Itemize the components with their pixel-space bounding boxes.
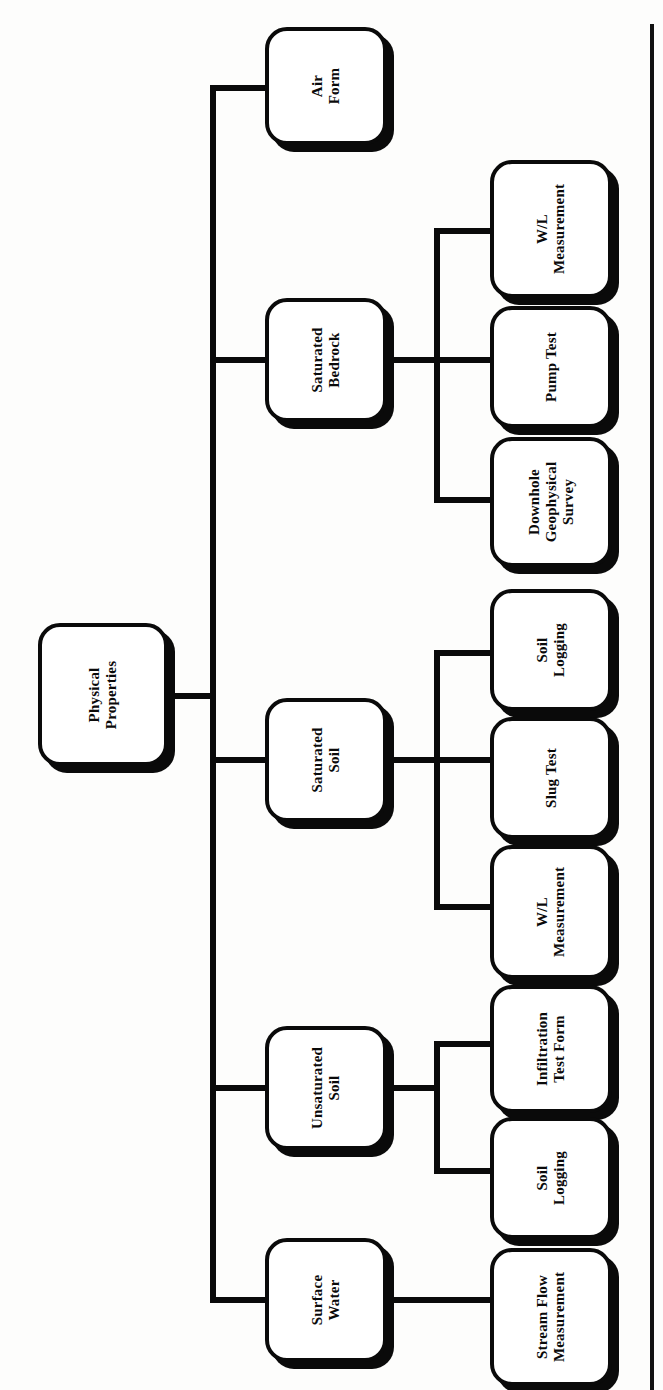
node-unsat-soil-logging[interactable]: Soil Logging [490,1117,612,1239]
page-border-rule [650,24,654,1390]
node-satsoil-slug-test[interactable]: Slug Test [490,717,612,839]
connector-unsat-stub [392,1085,440,1091]
node-label: Unsaturated Soil [309,1047,343,1129]
connector-satsoil-to-wl [434,904,492,910]
node-physical-properties[interactable]: Physical Properties [38,623,168,766]
connector-bedrock-stub [392,357,440,363]
connector-unsat-trunk [434,1041,440,1174]
connector-trunk-to-air-form [210,85,265,91]
connector-main-trunk [210,85,216,1303]
connector-satsoil-stub [392,757,440,763]
connector-trunk-to-surface-water [210,1297,265,1303]
node-bedrock-pump-test[interactable]: Pump Test [490,306,612,428]
node-satsoil-soil-logging[interactable]: Soil Logging [490,589,612,711]
connector-satsoil-to-logging [434,650,492,656]
connector-bedrock-to-pump [434,357,492,363]
connector-bedrock-trunk [434,228,440,503]
node-label: Air Form [309,68,343,105]
node-unsat-infiltration-test-form[interactable]: Infiltration Test Form [490,985,612,1113]
connector-trunk-to-saturated-soil [210,757,265,763]
node-unsaturated-soil[interactable]: Unsaturated Soil [265,1026,387,1150]
connector-unsat-to-infiltration [434,1041,492,1047]
connector-unsat-to-logging [434,1168,492,1174]
connector-surfacewater-stub [392,1297,492,1303]
node-label: Downhole Geophysical Survey [526,462,576,543]
node-air-form[interactable]: Air Form [265,27,387,145]
node-surfacewater-stream-flow-measurement[interactable]: Stream Flow Measurement [490,1248,612,1386]
node-saturated-soil[interactable]: Saturated Soil [265,698,387,822]
connector-root-stub [168,693,216,699]
node-surface-water[interactable]: Surface Water [265,1238,387,1362]
node-bedrock-wl-measurement[interactable]: W/L Measurement [490,160,612,298]
node-satsoil-wl-measurement[interactable]: W/L Measurement [490,845,612,979]
node-label: Stream Flow Measurement [534,1272,568,1362]
node-label: Surface Water [309,1275,343,1326]
connector-trunk-to-saturated-bedrock [210,357,265,363]
connector-bedrock-to-downhole [434,497,492,503]
connector-bedrock-to-wl [434,228,492,234]
node-bedrock-downhole-geophysical-survey[interactable]: Downhole Geophysical Survey [490,437,612,567]
node-label: Infiltration Test Form [534,1012,568,1086]
diagram-canvas: Physical Properties Air Form Saturated B… [0,0,663,1390]
connector-trunk-to-unsaturated-soil [210,1085,265,1091]
node-saturated-bedrock[interactable]: Saturated Bedrock [265,298,387,422]
connector-satsoil-trunk [434,650,440,910]
node-label: Soil Logging [534,623,568,677]
node-label: W/L Measurement [534,867,568,957]
node-label: Physical Properties [86,660,120,728]
node-label: Soil Logging [534,1151,568,1205]
node-label: Pump Test [543,332,560,402]
node-label: Saturated Bedrock [309,327,343,392]
node-label: W/L Measurement [534,184,568,274]
node-label: Saturated Soil [309,727,343,792]
connector-satsoil-to-slug [434,757,492,763]
node-label: Slug Test [543,748,560,808]
